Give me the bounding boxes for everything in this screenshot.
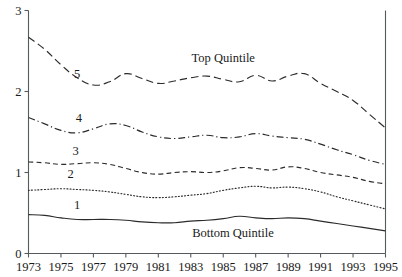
series-line-3 [29,162,386,184]
y-tick-label: 3 [15,4,21,18]
series-line-4 [29,117,386,164]
x-tick-label: 1979 [113,260,138,274]
y-tick-label: 1 [15,166,21,180]
x-tick-label: 1973 [16,260,41,274]
x-tick-label: 1983 [178,260,203,274]
x-tick-label: 1981 [146,260,171,274]
series-line-2 [29,186,386,209]
x-tick-label: 1989 [276,260,301,274]
annotation-top-quintile: Top Quintile [192,51,256,65]
curve-label-4: 4 [76,111,83,125]
line-chart: 0123197319751977197919811983198519871989… [0,0,402,277]
x-tick-label: 1977 [81,260,106,274]
curve-label-5: 5 [74,67,80,81]
x-tick-label: 1985 [211,260,236,274]
chart-container: 0123197319751977197919811983198519871989… [0,0,402,277]
x-tick-label: 1975 [48,260,73,274]
y-tick-label: 2 [15,85,21,99]
x-tick-label: 1993 [341,260,366,274]
curve-label-2: 2 [68,167,74,181]
x-tick-label: 1991 [308,260,333,274]
curve-label-3: 3 [72,144,78,158]
chart-axes [29,11,386,254]
x-tick-label: 1987 [243,260,268,274]
annotation-bottom-quintile: Bottom Quintile [192,226,274,240]
x-tick-label: 1995 [373,260,398,274]
curve-label-1: 1 [74,198,80,212]
